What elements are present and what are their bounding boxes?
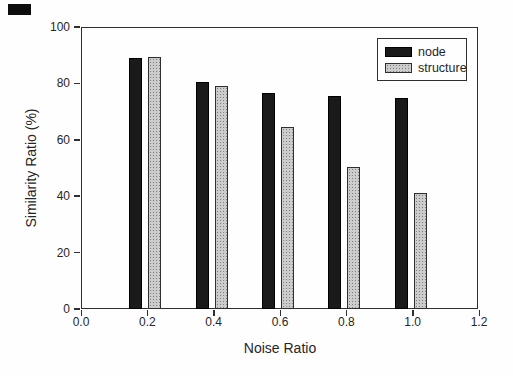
y-tick-40 [74,195,80,197]
x-tick-label-1.2: 1.2 [471,315,488,329]
bar-structure-0.6 [281,127,294,309]
figure-similarity-vs-noise: 0.00.20.40.60.81.01.2020406080100 Noise … [0,0,513,376]
legend: node structure [377,38,467,81]
scan-artifact-mark [8,4,31,15]
x-tick-label-0.8: 0.8 [338,315,355,329]
bar-structure-0.2 [148,57,161,309]
bar-node-0.8 [328,96,341,309]
bar-node-1 [395,98,408,310]
y-tick-20 [74,252,80,254]
bar-structure-0.4 [215,86,228,309]
x-tick-label-0.4: 0.4 [205,315,222,329]
legend-row-node: node [385,46,466,58]
y-tick-100 [74,26,80,28]
y-tick-label-80: 80 [57,76,70,90]
y-axis-title: Similarity Ratio (%) [23,108,39,227]
legend-swatch-node [385,47,412,57]
x-axis-title: Noise Ratio [244,340,316,356]
x-tick-label-0.6: 0.6 [272,315,289,329]
legend-label-structure: structure [418,62,467,74]
bar-structure-1 [414,193,427,309]
legend-swatch-structure [385,63,412,73]
legend-label-node: node [418,46,446,58]
bar-node-0.2 [129,58,142,309]
x-tick-label-0.0: 0.0 [73,315,90,329]
y-tick-80 [74,83,80,85]
y-tick-0 [74,308,80,310]
x-tick-label-0.2: 0.2 [139,315,156,329]
y-tick-label-20: 20 [57,246,70,260]
bar-node-0.6 [262,93,275,309]
y-tick-label-0: 0 [63,302,70,316]
x-tick-label-1.0: 1.0 [404,315,421,329]
bar-structure-0.8 [347,167,360,309]
y-tick-label-60: 60 [57,133,70,147]
legend-row-structure: structure [385,62,466,74]
bar-node-0.4 [196,82,209,309]
y-tick-60 [74,139,80,141]
y-tick-label-100: 100 [50,20,70,34]
y-tick-label-40: 40 [57,189,70,203]
